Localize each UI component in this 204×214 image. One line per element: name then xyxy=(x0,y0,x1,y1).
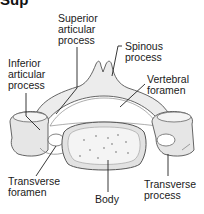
label-spinous-process: Spinous process xyxy=(125,41,163,63)
label-body: Body xyxy=(95,194,119,205)
label-vertebral-foramen: Vertebral foramen xyxy=(147,74,189,96)
label-transverse-process: Transverse process xyxy=(144,179,196,201)
label-transverse-foramen: Transverse foramen xyxy=(8,176,60,198)
label-line: Body xyxy=(95,194,119,205)
label-line: foramen xyxy=(8,187,60,198)
right-transverse-foramen xyxy=(157,134,175,146)
label-superior-articular-process: Superior articular process xyxy=(58,13,98,46)
label-line: process xyxy=(125,52,163,63)
label-line: process xyxy=(8,80,45,91)
label-line: process xyxy=(144,190,196,201)
label-inferior-articular-process: Inferior articular process xyxy=(8,58,45,91)
right-superior-facet xyxy=(157,112,191,122)
label-line: foramen xyxy=(147,85,189,96)
vertebra-diagram: Sup xyxy=(0,0,204,214)
label-line: process xyxy=(58,35,98,46)
